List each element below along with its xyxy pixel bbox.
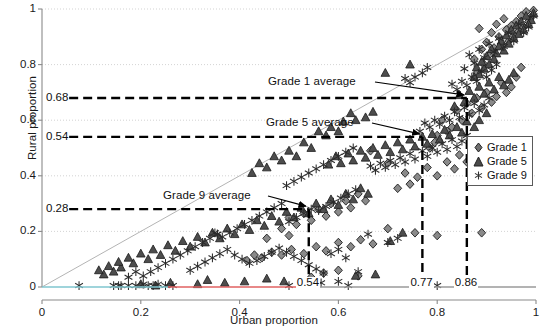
asterisk-marker-icon bbox=[472, 169, 485, 182]
annotation-grade-1-average: Grade 1 average bbox=[268, 76, 356, 88]
legend: Grade 1 Grade 5 Grade 9 bbox=[467, 136, 533, 186]
legend-label-grade-9: Grade 9 bbox=[487, 170, 527, 181]
scatter-chart-figure: Rural proportion Urban proportion 00.20.… bbox=[0, 0, 548, 335]
horizontal-reference-value: 0.54 bbox=[45, 131, 69, 143]
reference-line-labels: 0.680.540.280.860.770.54 bbox=[0, 0, 548, 335]
legend-label-grade-1: Grade 1 bbox=[487, 142, 527, 153]
vertical-reference-value: 0.86 bbox=[454, 277, 478, 289]
legend-item-grade-1: Grade 1 bbox=[472, 140, 527, 154]
triangle-marker-icon bbox=[472, 155, 485, 168]
annotation-grade-9-average: Grade 9 average bbox=[163, 190, 251, 202]
vertical-reference-value: 0.77 bbox=[409, 277, 433, 289]
diamond-marker-icon bbox=[472, 141, 485, 154]
legend-item-grade-9: Grade 9 bbox=[472, 168, 527, 182]
annotation-grade-5-average: Grade 5 average bbox=[266, 117, 354, 129]
horizontal-reference-value: 0.68 bbox=[45, 92, 69, 104]
legend-item-grade-5: Grade 5 bbox=[472, 154, 527, 168]
horizontal-reference-value: 0.28 bbox=[45, 203, 69, 215]
legend-label-grade-5: Grade 5 bbox=[487, 156, 527, 167]
vertical-reference-value: 0.54 bbox=[296, 277, 320, 289]
